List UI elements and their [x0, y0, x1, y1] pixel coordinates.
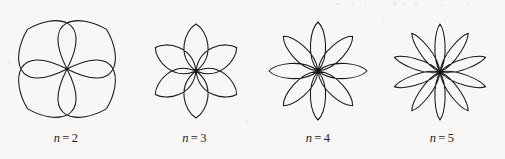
rose-curve-figure: n=2n=3n=4n=5 [0, 0, 505, 159]
scan-speck [382, 18, 384, 20]
caption-equals-sign: = [62, 131, 69, 145]
scan-speck [246, 120, 248, 122]
rose-caption-n-3: n=3 [132, 131, 257, 146]
caption-variable: n [182, 131, 189, 145]
scan-speck [414, 2, 418, 4]
caption-variable: n [306, 131, 313, 145]
caption-equals-sign: = [438, 131, 445, 145]
scan-speck [351, 2, 354, 4]
caption-equals-sign: = [191, 131, 198, 145]
caption-value: 5 [448, 131, 455, 145]
rose-caption-n-5: n=5 [379, 131, 505, 146]
scan-speck [403, 3, 406, 5]
rose-caption-n-4: n=4 [257, 131, 379, 146]
caption-value: 2 [72, 131, 79, 145]
scan-speck [392, 2, 397, 5]
scan-speck [440, 4, 443, 6]
caption-variable: n [54, 131, 61, 145]
caption-value: 4 [324, 131, 331, 145]
scan-speck [364, 4, 366, 6]
scan-speck [468, 3, 470, 5]
scan-speck [336, 3, 340, 5]
rose-panel-n-3: n=3 [132, 0, 257, 159]
rose-panel-n-4: n=4 [257, 0, 379, 159]
rose-panel-n-2: n=2 [0, 0, 132, 159]
rose-panel-n-5: n=5 [379, 0, 505, 159]
caption-value: 3 [200, 131, 207, 145]
caption-variable: n [430, 131, 437, 145]
scan-speck [8, 62, 10, 64]
rose-caption-n-2: n=2 [0, 131, 132, 146]
caption-equals-sign: = [314, 131, 321, 145]
